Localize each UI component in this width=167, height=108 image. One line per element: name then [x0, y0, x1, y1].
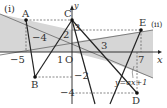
tick-y-3: 3 — [74, 23, 80, 33]
label-C: C — [64, 9, 72, 19]
label-A: A — [22, 9, 29, 19]
line-equation-label: y=ax+1 — [115, 79, 147, 87]
label-D: D — [132, 96, 140, 106]
label-B: B — [31, 80, 38, 90]
x-axis-label: x — [157, 55, 163, 65]
tick-x-3: 3 — [101, 41, 107, 51]
label-E: E — [139, 18, 146, 28]
coordinate-diagram: (i) (ii) A B C D E y x O −5 −4 1 3 7 3 2… — [0, 0, 167, 108]
tick-x-neg4: −4 — [32, 33, 47, 43]
tick-y-neg4: −4 — [60, 88, 75, 98]
tick-x-7: 7 — [138, 55, 144, 65]
panel-label-i: (i) — [4, 4, 15, 14]
tick-y-2: 2 — [63, 30, 69, 40]
panel-label-ii: (ii) — [151, 21, 162, 29]
y-axis-label: y — [74, 2, 79, 10]
tick-x-1: 1 — [57, 55, 63, 65]
point-E — [139, 28, 143, 32]
origin-label: O — [65, 55, 73, 65]
tick-x-neg5: −5 — [10, 55, 25, 65]
tick-y-neg2: −2 — [74, 71, 89, 81]
